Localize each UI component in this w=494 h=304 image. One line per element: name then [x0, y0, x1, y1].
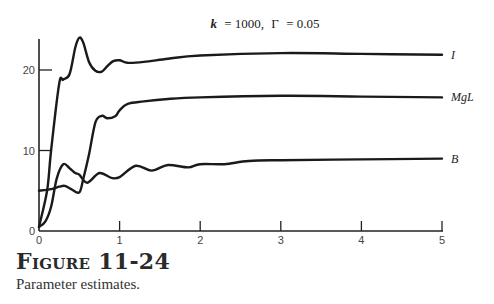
- x-tick-label: 4: [358, 234, 364, 246]
- axis-ticks: [39, 70, 442, 231]
- x-tick-label: 5: [439, 234, 445, 246]
- series-label-mgl: MgL: [450, 90, 474, 104]
- series-labels: IMgLB: [450, 48, 474, 166]
- axis-tick-labels: 01234501020: [23, 64, 445, 246]
- series-line-i: [39, 38, 442, 227]
- series-label-b: B: [451, 152, 459, 166]
- series-line-b: [39, 159, 442, 227]
- y-tick-label: 20: [23, 64, 35, 76]
- x-tick-label: 0: [36, 234, 42, 246]
- series-line-mgl: [39, 96, 442, 193]
- x-tick-label: 2: [197, 234, 203, 246]
- y-tick-label: 0: [29, 225, 35, 237]
- x-tick-label: 1: [117, 234, 123, 246]
- series-label-i: I: [450, 48, 456, 62]
- chart-curves: [39, 38, 442, 227]
- chart-title: k = 1000, Γ = 0.05: [211, 16, 320, 31]
- figure-number: Figure 11-24: [16, 248, 170, 274]
- y-tick-label: 10: [23, 145, 35, 157]
- x-tick-label: 3: [278, 234, 284, 246]
- figure-caption: Parameter estimates.: [16, 276, 140, 293]
- chart-plot: k = 1000, Γ = 0.05 01234501020 IMgLB: [0, 0, 494, 250]
